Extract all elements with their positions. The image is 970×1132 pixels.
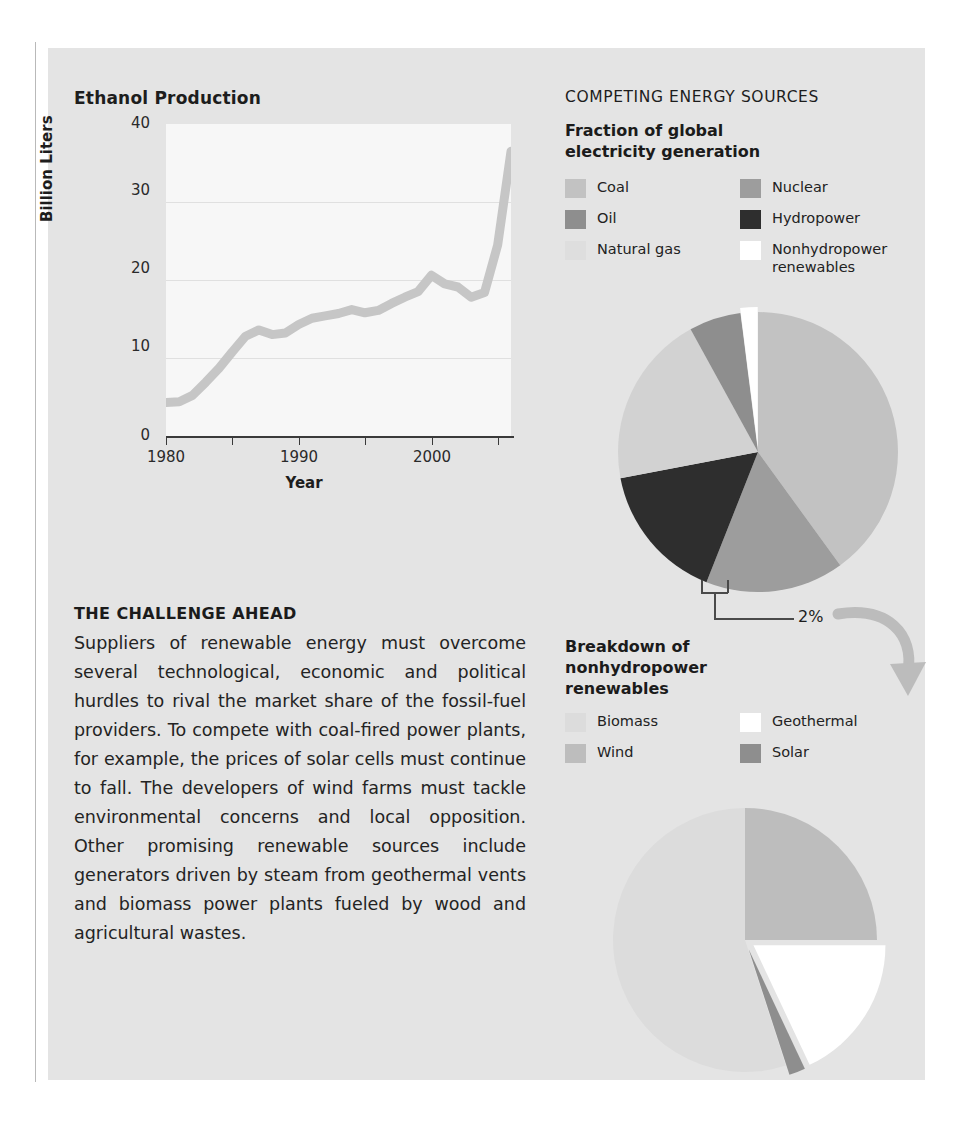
legend-label-hydropower: Hydropower [772, 209, 860, 227]
left-margin-rule [35, 42, 36, 1082]
legend-item-biomass[interactable]: Biomass [565, 712, 740, 732]
xtick-1990: 1990 [272, 448, 326, 466]
legend-label-oil: Oil [597, 209, 616, 227]
swatch-biomass-icon [565, 713, 586, 732]
pie1-legend: Coal Oil Natural gas Nuclear H [565, 178, 915, 287]
ytick-20: 20 [110, 259, 150, 277]
xtick-mark-1985 [232, 438, 233, 445]
legend-item-wind[interactable]: Wind [565, 743, 740, 763]
legend-label-wind: Wind [597, 743, 633, 761]
legend-item-hydropower[interactable]: Hydropower [740, 209, 915, 229]
section-heading: COMPETING ENERGY SOURCES [565, 88, 915, 106]
pie-slice-wind[interactable] [745, 808, 877, 940]
legend-label-solar: Solar [772, 743, 809, 761]
x-axis-title: Year [74, 474, 534, 492]
swatch-nonhydropower-renewables-icon [740, 241, 761, 260]
swatch-hydropower-icon [740, 210, 761, 229]
callout-bracket-right [727, 580, 729, 593]
swatch-coal-icon [565, 179, 586, 198]
legend-label-biomass: Biomass [597, 712, 658, 730]
xtick-mark-1990 [299, 438, 300, 445]
pie2-title-line2: nonhydropower [565, 657, 707, 678]
ytick-40: 40 [110, 114, 150, 132]
legend-item-coal[interactable]: Coal [565, 178, 740, 198]
legend-item-oil[interactable]: Oil [565, 209, 740, 229]
pie1-legend-col-left: Coal Oil Natural gas [565, 178, 740, 287]
swatch-nuclear-icon [740, 179, 761, 198]
ytick-10: 10 [110, 337, 150, 355]
callout-stem-horizontal [714, 618, 794, 620]
page-title: Ethanol Production [74, 88, 261, 108]
pie1-title-line1: Fraction of global [565, 120, 915, 141]
electricity-generation-pie-chart [608, 307, 908, 607]
pie2-legend-col-right: Geothermal Solar [740, 712, 915, 774]
legend-item-solar[interactable]: Solar [740, 743, 915, 763]
legend-label-nuclear: Nuclear [772, 178, 828, 196]
pie2-legend: Biomass Wind Geothermal Solar [565, 712, 915, 774]
xtick-1980: 1980 [139, 448, 193, 466]
callout-value: 2% [798, 607, 823, 626]
plot-area [166, 124, 511, 436]
pie2-title-line1: Breakdown of [565, 636, 690, 657]
xtick-mark-1995 [365, 438, 366, 445]
right-column: COMPETING ENERGY SOURCES Fraction of glo… [565, 88, 915, 287]
xtick-mark-2005 [498, 438, 499, 445]
ytick-0: 0 [110, 426, 150, 444]
legend-label-geothermal: Geothermal [772, 712, 858, 730]
article-heading: THE CHALLENGE AHEAD [74, 604, 526, 623]
legend-item-geothermal[interactable]: Geothermal [740, 712, 915, 732]
swatch-oil-icon [565, 210, 586, 229]
legend-item-nuclear[interactable]: Nuclear [740, 178, 915, 198]
infographic-page: Ethanol Production 40 30 20 10 0 Billion… [0, 0, 970, 1132]
y-axis-title: Billion Liters [38, 115, 56, 222]
ytick-30: 30 [110, 181, 150, 199]
pie2-legend-col-left: Biomass Wind [565, 712, 740, 774]
pie1-legend-col-right: Nuclear Hydropower Nonhydropower renewab… [740, 178, 915, 287]
xtick-mark-1980 [166, 438, 167, 445]
xtick-mark-2000 [432, 438, 433, 445]
article-paragraph: Suppliers of renewable energy must overc… [74, 629, 526, 948]
nonhydropower-renewables-pie-chart [605, 795, 895, 1085]
legend-label-natural-gas: Natural gas [597, 240, 681, 258]
legend-item-natural-gas[interactable]: Natural gas [565, 240, 740, 260]
swatch-natural-gas-icon [565, 241, 586, 260]
swatch-solar-icon [740, 744, 761, 763]
legend-label-coal: Coal [597, 178, 629, 196]
swatch-wind-icon [565, 744, 586, 763]
ethanol-line-chart: 40 30 20 10 0 Billion Liters 1980 1990 2… [74, 112, 534, 492]
article-block: THE CHALLENGE AHEAD Suppliers of renewab… [74, 604, 526, 948]
xtick-2000: 2000 [405, 448, 459, 466]
ethanol-line-series [166, 124, 511, 436]
curved-arrow-icon [830, 600, 950, 710]
pie2-title-line3: renewables [565, 678, 669, 699]
callout-stem-vertical [714, 592, 716, 619]
pie1-title-line2: electricity generation [565, 141, 915, 162]
legend-item-nonhydropower-renewables[interactable]: Nonhydropower renewables [740, 240, 915, 276]
legend-label-nonhydropower-renewables: Nonhydropower renewables [772, 240, 915, 276]
swatch-geothermal-icon [740, 713, 761, 732]
x-axis-line [166, 436, 514, 438]
